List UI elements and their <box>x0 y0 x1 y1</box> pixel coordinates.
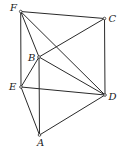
vertex-labels: FCBEDA <box>8 2 117 148</box>
vertex-label-C: C <box>109 13 117 24</box>
vertex-label-B: B <box>27 52 35 63</box>
edges <box>21 12 105 136</box>
edge-EA <box>21 87 40 135</box>
edge-FB <box>21 12 39 58</box>
vertex-label-E: E <box>8 81 17 92</box>
vertex-label-F: F <box>9 2 18 13</box>
edge-CB <box>39 19 105 58</box>
vertex-D <box>104 94 107 97</box>
edge-FC <box>21 12 105 19</box>
edge-CD <box>105 19 106 96</box>
edge-AD <box>40 95 106 135</box>
geometry-diagram: FCBEDA <box>0 0 123 149</box>
vertex-A <box>38 134 41 137</box>
vertex-E <box>20 86 23 89</box>
vertex-C <box>103 17 106 20</box>
vertex-B <box>38 56 41 59</box>
vertex-F <box>19 10 22 13</box>
vertex-label-A: A <box>36 137 44 148</box>
vertex-label-D: D <box>108 91 117 102</box>
edge-BA <box>39 57 40 135</box>
